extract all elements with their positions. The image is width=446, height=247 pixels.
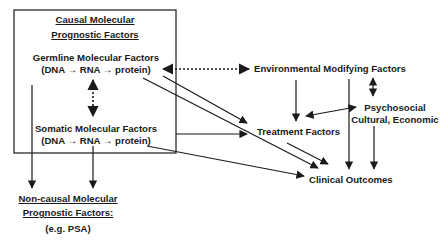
causal-title-line1: Causal Molecular	[56, 14, 135, 26]
psychosocial-line1: Psychosocial	[364, 102, 425, 114]
treatment-to-outcomes	[287, 143, 328, 164]
somatic-label: Somatic Molecular Factors	[35, 123, 157, 135]
somatic-to-outcomes	[147, 146, 304, 176]
causal-title-line2: Prognostic Factors	[51, 29, 138, 41]
clinical-outcomes: Clinical Outcomes	[309, 174, 393, 186]
noncausal-title-line1: Non-causal Molecular	[18, 193, 117, 205]
germline-to-outcomes	[143, 78, 318, 168]
psychosocial-line2: Cultural, Economic	[351, 114, 438, 126]
germline-pathway: (DNA → RNA → protein)	[41, 64, 151, 76]
noncausal-example: (e.g. PSA)	[45, 223, 90, 235]
treatment-factors: Treatment Factors	[257, 126, 340, 138]
noncausal-title-line2: Prognostic Factors:	[23, 207, 114, 219]
somatic-pathway: (DNA → RNA → protein)	[41, 135, 151, 147]
germline-label: Germline Molecular Factors	[33, 52, 159, 64]
environmental-factors: Environmental Modifying Factors	[254, 63, 406, 75]
